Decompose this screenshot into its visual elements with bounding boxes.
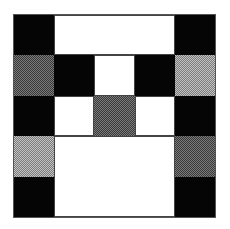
- grid-cell-black: [175, 96, 215, 136]
- grid-cell-white: [54, 96, 94, 136]
- grid-cell-light-gray: [14, 136, 54, 176]
- grid-cell-black: [135, 55, 175, 95]
- grid-cell-black: [14, 177, 54, 217]
- grid-cell-white: [54, 15, 175, 55]
- grid-cell-white: [54, 136, 175, 217]
- pattern-grid: [13, 14, 216, 218]
- grid-cell-black: [54, 55, 94, 95]
- grid-cell-black: [175, 15, 215, 55]
- grid-cell-black: [175, 177, 215, 217]
- grid-cell-light-gray: [175, 55, 215, 95]
- grid-cell-black: [14, 96, 54, 136]
- grid-cell-dark-gray: [94, 96, 134, 136]
- grid-cell-black: [14, 15, 54, 55]
- grid-cell-white: [135, 96, 175, 136]
- grid-cell-white: [94, 55, 134, 95]
- grid-cell-dark-gray: [14, 55, 54, 95]
- grid-cell-dark-gray: [175, 136, 215, 176]
